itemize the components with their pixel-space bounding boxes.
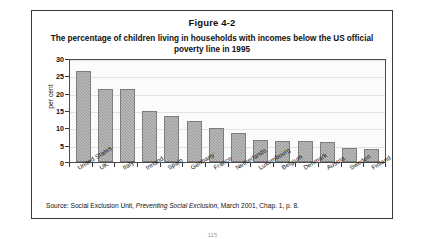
- bar-spain: [164, 116, 179, 162]
- source-note: Source: Social Exclusion Unit, Preventin…: [46, 202, 299, 209]
- y-axis-tick-30: 30: [46, 56, 64, 63]
- source-suffix: , March 2001, Chap. 1, p. 8.: [217, 202, 299, 209]
- bar-united-states: [76, 71, 91, 162]
- chart-plot-area: per cent 051015202530 United StatesUKIta…: [32, 59, 392, 177]
- y-axis-tick-25: 25: [46, 73, 64, 80]
- figure-title: The percentage of children living in hou…: [44, 34, 380, 55]
- y-axis-tick-10: 10: [46, 125, 64, 132]
- chart-canvas: [69, 59, 386, 163]
- y-axis-tick-0: 0: [46, 160, 64, 167]
- figure-frame: Figure 4-2 The percentage of children li…: [31, 10, 393, 219]
- bar-italy: [120, 89, 135, 162]
- bar-series: [70, 60, 385, 162]
- page-number: 115: [0, 232, 425, 238]
- y-axis-tick-labels: 051015202530: [46, 59, 64, 163]
- y-axis-tick-20: 20: [46, 90, 64, 97]
- source-prefix: Source: Social Exclusion Unit,: [46, 202, 134, 209]
- y-axis-tick-15: 15: [46, 108, 64, 115]
- source-publication-title: Preventing Social Exclusion: [136, 202, 217, 209]
- x-axis-category-labels: United StatesUKItalyIrelandSpainGermanyF…: [69, 165, 386, 205]
- y-axis-tick-5: 5: [46, 142, 64, 149]
- bar-ireland: [142, 111, 157, 162]
- figure-number: Figure 4-2: [32, 17, 392, 28]
- bar-germany: [187, 121, 202, 162]
